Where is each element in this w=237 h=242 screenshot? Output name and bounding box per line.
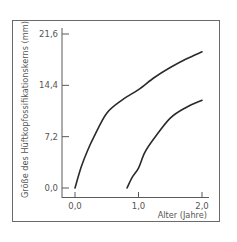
- x-tick-label: 0,0: [68, 201, 82, 211]
- y-tick-label: 21,6: [39, 29, 58, 39]
- y-tick-label: 14,4: [39, 80, 58, 90]
- y-tick-label: 0,0: [44, 183, 58, 193]
- x-axis-label: Alter (Jahre): [158, 210, 207, 220]
- lower-curve: [127, 100, 202, 188]
- line-chart: 0,07,214,421,6 0,01,02,0 Größe des Hüftk…: [0, 0, 237, 242]
- x-tick-label: 1,0: [132, 201, 146, 211]
- y-tick-label: 7,2: [44, 132, 58, 142]
- x-ticks: 0,01,02,0: [68, 192, 209, 211]
- curves: [75, 52, 202, 188]
- y-axis-label: Größe des Hüftkopfossifikationskerns (mm…: [20, 21, 30, 198]
- y-ticks: 0,07,214,421,6: [39, 29, 69, 193]
